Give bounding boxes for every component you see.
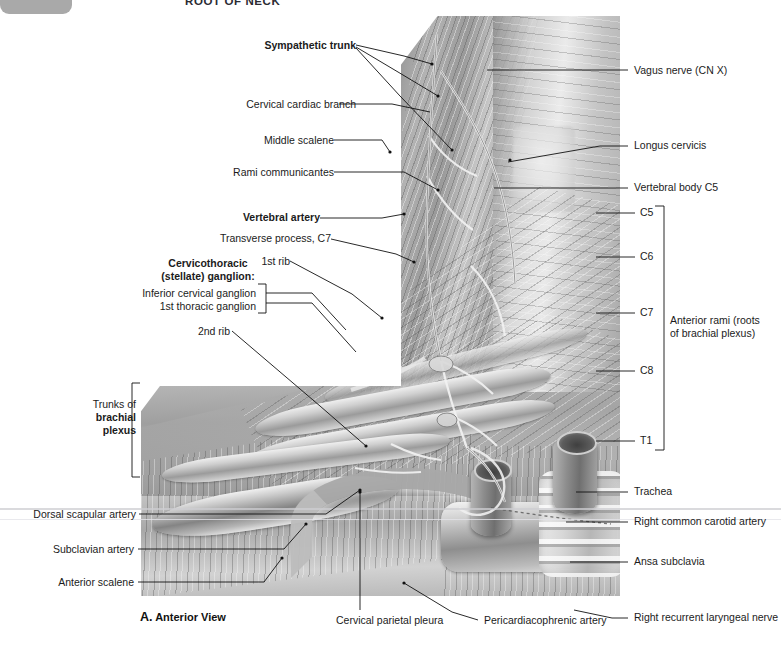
label-spinal-level-t1: T1 bbox=[640, 434, 652, 447]
figure-caption-letter: A. bbox=[140, 610, 153, 624]
label-ansa-subclavia: Ansa subclavia bbox=[634, 555, 705, 568]
page-header-tab bbox=[0, 0, 72, 14]
label-second-rib: 2nd rib bbox=[152, 325, 230, 338]
label-spinal-level-c7: C7 bbox=[640, 306, 653, 319]
label-anterior-rami-line1: Anterior rami (roots bbox=[670, 314, 760, 327]
label-sympathetic-trunk: Sympathetic trunk bbox=[172, 39, 356, 52]
label-inferior-cervical-ganglion: Inferior cervical ganglion bbox=[120, 287, 256, 300]
label-cervical-cardiac-branch: Cervical cardiac branch bbox=[172, 98, 356, 111]
label-trachea: Trachea bbox=[634, 485, 672, 498]
label-first-thoracic-ganglion: 1st thoracic ganglion bbox=[120, 300, 256, 313]
figure-page: ROOT OF NECK bbox=[0, 0, 781, 665]
label-cervicothoracic-ganglion-line1: Cervicothoracic bbox=[152, 257, 264, 270]
label-vagus-nerve: Vagus nerve (CN X) bbox=[634, 64, 727, 77]
label-spinal-level-c5: C5 bbox=[640, 206, 653, 219]
label-longus-cervicis: Longus cervicis bbox=[634, 139, 706, 152]
label-trunks-of-line2: brachial bbox=[60, 411, 136, 424]
label-right-recurrent-laryngeal-nerve: Right recurrent laryngeal nerve bbox=[634, 611, 778, 624]
label-cervical-parietal-pleura: Cervical parietal pleura bbox=[336, 614, 443, 627]
label-right-common-carotid-artery: Right common carotid artery bbox=[634, 515, 766, 528]
label-rami-communicantes: Rami communicantes bbox=[160, 166, 334, 179]
label-middle-scalene: Middle scalene bbox=[172, 134, 334, 147]
label-spinal-level-c6: C6 bbox=[640, 250, 653, 263]
running-head: ROOT OF NECK bbox=[185, 0, 605, 7]
label-pericardiacophrenic-artery: Pericardiacophrenic artery bbox=[484, 614, 607, 627]
label-transverse-process-c7: Transverse process, C7 bbox=[160, 232, 331, 245]
label-dorsal-scapular-artery: Dorsal scapular artery bbox=[0, 508, 136, 521]
label-anterior-rami-line2: of brachial plexus) bbox=[670, 327, 755, 340]
label-trunks-of-line1: Trunks of bbox=[60, 398, 136, 411]
figure-caption: A. Anterior View bbox=[140, 610, 226, 624]
label-cervicothoracic-ganglion-line2: (stellate) ganglion: bbox=[150, 270, 266, 283]
figure-caption-text: Anterior View bbox=[155, 611, 226, 623]
label-trunks-of-line3: plexus bbox=[60, 424, 136, 437]
label-anterior-scalene: Anterior scalene bbox=[0, 576, 134, 589]
label-vertebral-artery: Vertebral artery bbox=[160, 211, 320, 224]
label-subclavian-artery: Subclavian artery bbox=[0, 543, 134, 556]
label-vertebral-body-c5: Vertebral body C5 bbox=[634, 181, 718, 194]
label-spinal-level-c8: C8 bbox=[640, 364, 653, 377]
